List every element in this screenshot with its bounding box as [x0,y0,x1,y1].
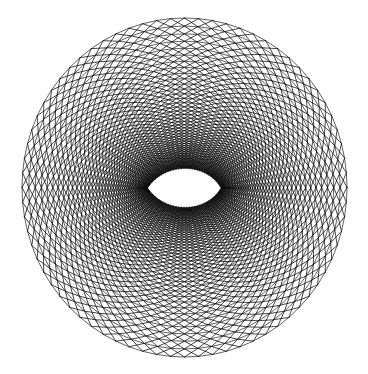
cfd-mesh-plot [0,0,368,374]
figure-root [0,0,368,374]
